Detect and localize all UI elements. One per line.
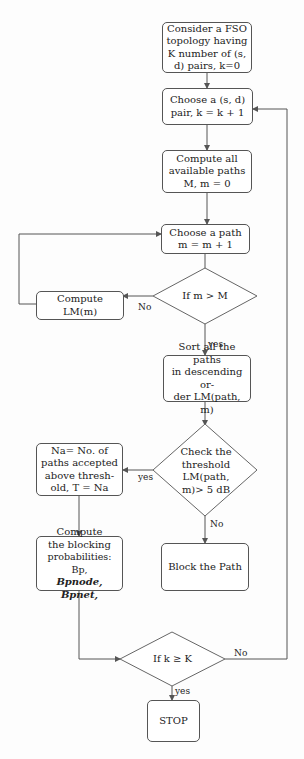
choose-path-line-1: Choose a path xyxy=(169,227,241,240)
stop-node: STOP xyxy=(147,700,200,742)
decision-threshold-label: Check the threshold LM(path, m)> 5 dB xyxy=(170,445,242,497)
sort-line-2: in descending or- xyxy=(167,366,247,391)
blocking-probabilities-node: Compute the blocking probabilities: Bp, … xyxy=(36,536,123,591)
start-line-2: topology having xyxy=(166,35,247,48)
decision-k-text: If k ≥ K xyxy=(153,653,192,666)
accepted-line-2: paths accepted xyxy=(41,457,118,470)
choose-pair-line-1: Choose a (s, d) xyxy=(170,94,245,107)
sort-line-3: der LM(path, m) xyxy=(167,391,247,416)
edge-label-threshold-no: No xyxy=(210,519,223,529)
edge-label-threshold-yes: yes xyxy=(138,472,153,482)
threshold-line-4: m)> 5 dB xyxy=(180,484,231,497)
edge-label-m-no: No xyxy=(138,302,151,312)
choose-pair-node: Choose a (s, d) pair, k = k + 1 xyxy=(162,88,253,125)
edge-label-k-yes: yes xyxy=(175,686,190,696)
decision-m-label: If m > M xyxy=(160,286,250,306)
start-line-3: K number of (s, xyxy=(166,48,247,61)
accepted-line-1: Na= No. of xyxy=(41,445,118,458)
blocking-line-3: probabilities: Bp, xyxy=(40,551,119,576)
sort-paths-node: Sort all the paths in descending or- der… xyxy=(163,355,251,402)
choose-path-node: Choose a path m = m + 1 xyxy=(161,224,250,254)
blocking-line-4: Bpnode, Bpnet, xyxy=(40,576,119,601)
block-path-node: Block the Path xyxy=(161,543,249,591)
decision-k-label: If k ≥ K xyxy=(135,649,210,669)
block-path-text: Block the Path xyxy=(168,561,242,574)
compute-paths-line-3: M, m = 0 xyxy=(169,178,246,191)
blocking-line-2: the blocking xyxy=(40,539,119,552)
edge-label-k-no: No xyxy=(234,648,247,658)
compute-lm-text: Compute LM(m) xyxy=(40,293,120,318)
stop-text: STOP xyxy=(159,715,187,728)
accepted-line-3: above thresh- xyxy=(41,470,118,483)
compute-paths-node: Compute all available paths M, m = 0 xyxy=(162,150,252,193)
choose-path-line-2: m = m + 1 xyxy=(169,239,241,252)
compute-paths-line-1: Compute all xyxy=(169,153,246,166)
decision-m-text: If m > M xyxy=(182,290,227,303)
threshold-line-2: threshold xyxy=(180,459,231,472)
sort-line-1: Sort all the paths xyxy=(167,341,247,366)
accepted-paths-node: Na= No. of paths accepted above thresh- … xyxy=(36,443,123,496)
flowchart-connectors xyxy=(0,0,304,759)
start-line-4: d) pairs, k=0 xyxy=(166,60,247,73)
blocking-line-1: Compute xyxy=(40,526,119,539)
choose-pair-line-2: pair, k = k + 1 xyxy=(170,107,245,120)
start-line-1: Consider a FSO xyxy=(166,23,247,36)
threshold-line-3: LM(path, xyxy=(180,471,231,484)
compute-lm-node: Compute LM(m) xyxy=(36,291,124,320)
compute-paths-line-2: available paths xyxy=(169,165,246,178)
accepted-line-4: old, T = Na xyxy=(41,482,118,495)
start-node: Consider a FSO topology having K number … xyxy=(162,22,252,73)
threshold-line-1: Check the xyxy=(180,446,231,459)
